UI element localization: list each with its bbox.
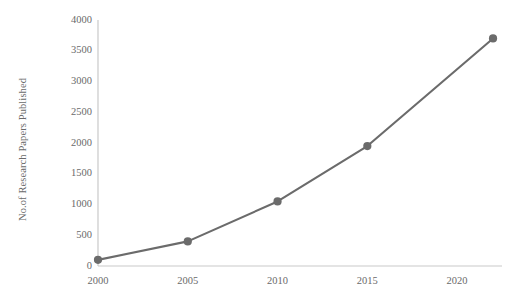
data-point-marker — [184, 237, 192, 245]
axis-lines — [98, 20, 502, 266]
line-chart: No.of Research Papers Published 05001000… — [0, 0, 516, 298]
data-point-marker — [273, 197, 281, 205]
data-point-marker — [94, 256, 102, 264]
data-point-markers — [94, 34, 497, 264]
data-line-series-1 — [98, 38, 493, 259]
data-point-marker — [363, 142, 371, 150]
data-point-marker — [489, 34, 497, 42]
plot-area — [0, 0, 516, 298]
